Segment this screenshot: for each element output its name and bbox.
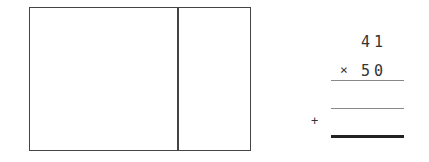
plus-sign: + bbox=[311, 114, 318, 128]
multiply-sign: × bbox=[340, 62, 352, 77]
partial-product-line bbox=[331, 108, 404, 109]
multiplicand: 41 bbox=[361, 33, 387, 51]
multiplier: 50 bbox=[361, 62, 387, 80]
area-model-rectangle bbox=[29, 7, 251, 151]
sum-line bbox=[331, 135, 404, 138]
area-model-divider bbox=[177, 8, 179, 150]
product-line bbox=[331, 80, 404, 81]
